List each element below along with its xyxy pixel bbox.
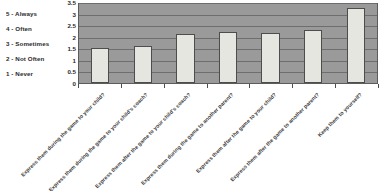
y-axis-tick-label: 3.5	[67, 0, 76, 6]
bar-chart-figure: 5 - Always 4 - Often 3 - Sometimes 2 - N…	[0, 0, 391, 191]
y-axis-tick-label: 2	[73, 35, 76, 41]
bar-slot	[292, 4, 335, 83]
x-axis-category-label: Express them after the game to your chil…	[195, 92, 277, 174]
x-axis-category-labels: Express them during the game to your chi…	[0, 88, 391, 191]
x-axis-category-label: Keep them to yourself?	[317, 92, 363, 138]
bar	[219, 32, 237, 83]
bar	[347, 8, 365, 83]
plot-area	[78, 3, 378, 84]
bars-container	[79, 4, 377, 83]
bar	[261, 33, 279, 83]
bar-slot	[164, 4, 207, 83]
x-axis-category-label: Express them after the game to your chil…	[95, 92, 192, 189]
y-axis-tick-labels: 00.511.522.533.5	[58, 0, 76, 88]
bar	[134, 46, 152, 83]
bar	[176, 34, 194, 83]
bar-slot	[79, 4, 122, 83]
y-axis-tick-label: 2.5	[67, 23, 76, 29]
bar-slot	[207, 4, 250, 83]
y-axis-tick-label: 0.5	[67, 69, 76, 75]
bar-slot	[334, 4, 377, 83]
y-axis-tick-label: 3	[73, 11, 76, 17]
y-axis-tick-label: 1	[73, 58, 76, 64]
x-axis-category-label: Express them after the game to another p…	[230, 92, 321, 183]
y-axis-tick-label: 1.5	[67, 46, 76, 52]
bar	[304, 30, 322, 83]
y-axis-tick-label: 0	[73, 81, 76, 87]
bar-slot	[249, 4, 292, 83]
bar-slot	[122, 4, 165, 83]
x-axis-category-label: Express them during the game to another …	[140, 92, 234, 186]
x-axis-category-label: Express them during the game to your chi…	[48, 92, 149, 191]
x-axis-category-label: Express them during the game to your chi…	[20, 92, 106, 178]
bar	[91, 48, 109, 83]
